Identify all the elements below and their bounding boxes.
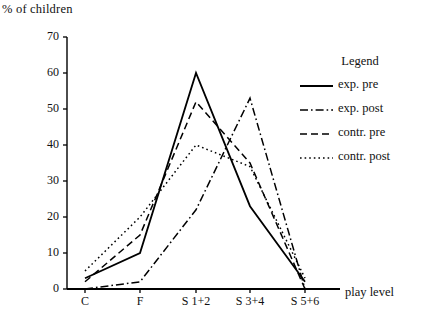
x-tick-label: S 5+6: [291, 294, 319, 309]
y-tick-label: 10: [31, 245, 59, 260]
x-tick-label: F: [137, 294, 144, 309]
y-tick-label: 70: [31, 29, 59, 44]
y-tick-label: 30: [31, 173, 59, 188]
series-line: [85, 145, 305, 278]
legend-entry-label: exp. post: [338, 101, 383, 116]
x-tick-label: S 3+4: [236, 294, 264, 309]
x-axis-title: play level: [345, 285, 394, 300]
legend-title: Legend: [341, 54, 378, 69]
y-tick-label: 0: [31, 281, 59, 296]
legend-entry-label: contr. post: [338, 149, 390, 164]
series-line: [85, 73, 305, 282]
legend-entry-label: exp. pre: [338, 77, 378, 92]
y-tick-label: 60: [31, 65, 59, 80]
x-tick-label: C: [81, 294, 89, 309]
series-line: [85, 98, 305, 289]
y-tick-label: 40: [31, 137, 59, 152]
x-tick-label: S 1+2: [182, 294, 210, 309]
y-tick-label: 20: [31, 209, 59, 224]
legend-entry-label: contr. pre: [338, 125, 385, 140]
chart-figure: % of children play level 010203040506070…: [0, 0, 428, 316]
series-line: [85, 102, 305, 289]
y-tick-label: 50: [31, 101, 59, 116]
y-axis-title: % of children: [2, 2, 73, 17]
